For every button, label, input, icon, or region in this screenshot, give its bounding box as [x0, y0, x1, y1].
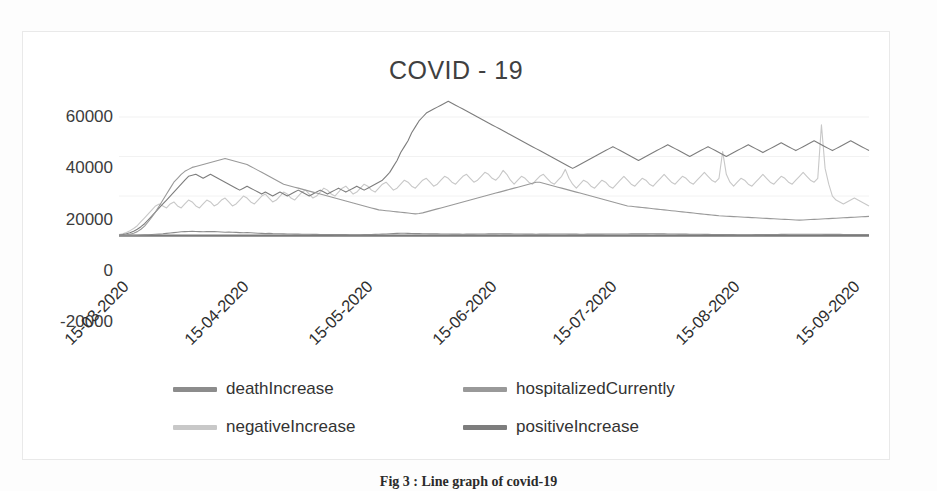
- y-axis-tick-label: 60000: [29, 107, 113, 127]
- x-axis-tick-label: 15-04-2020: [181, 277, 253, 349]
- legend-label: negativeIncrease: [226, 417, 355, 437]
- chart-title: COVID - 19: [23, 56, 889, 85]
- legend-swatch-icon: [173, 387, 217, 392]
- x-axis-tick-label: 15-05-2020: [304, 277, 376, 349]
- x-axis-tick-labels: 15-03-202015-04-202015-05-202015-06-2020…: [119, 271, 869, 381]
- legend-row: deathIncrease hospitalizedCurrently: [173, 370, 753, 408]
- x-axis-tick-label: 15-08-2020: [672, 277, 744, 349]
- plot-area: [119, 117, 869, 271]
- x-axis-tick-label: 15-07-2020: [548, 277, 620, 349]
- y-axis-tick-label: 0: [29, 261, 113, 281]
- y-axis-tick-label: 20000: [29, 210, 113, 230]
- legend-item-hospitalizedcurrently[interactable]: hospitalizedCurrently: [463, 379, 753, 399]
- series-line: [119, 101, 869, 235]
- plot-svg: [119, 117, 869, 271]
- legend-item-deathincrease[interactable]: deathIncrease: [173, 379, 463, 399]
- chart-frame: COVID - 19 6000040000200000-20000 15-03-…: [22, 31, 890, 460]
- legend-item-negativeincrease[interactable]: negativeIncrease: [173, 417, 463, 437]
- series-line: [119, 159, 869, 236]
- x-axis-tick-label: 15-09-2020: [792, 277, 864, 349]
- chart-legend: deathIncrease hospitalizedCurrently nega…: [173, 370, 753, 446]
- figure-caption: Fig 3 : Line graph of covid-19: [0, 474, 937, 491]
- x-axis-tick-label: 15-06-2020: [428, 277, 500, 349]
- legend-swatch-icon: [463, 387, 507, 392]
- legend-item-positiveincrease[interactable]: positiveIncrease: [463, 417, 753, 437]
- legend-swatch-icon: [463, 425, 507, 430]
- legend-label: deathIncrease: [226, 379, 334, 399]
- legend-row: negativeIncrease positiveIncrease: [173, 408, 753, 446]
- legend-label: positiveIncrease: [516, 417, 639, 437]
- y-axis-tick-labels: 6000040000200000-20000: [23, 117, 113, 271]
- legend-swatch-icon: [173, 425, 217, 430]
- legend-label: hospitalizedCurrently: [516, 379, 675, 399]
- y-axis-tick-label: 40000: [29, 158, 113, 178]
